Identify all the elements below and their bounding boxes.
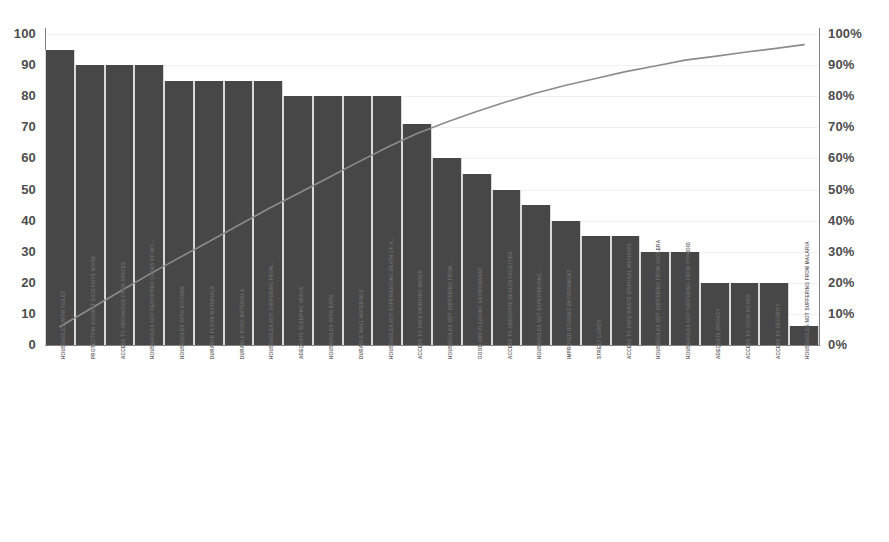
right-axis-tick: 40% (828, 214, 855, 227)
category-label: HOUSEHOLDS NOT SUFFERING FROM TYPHOID (687, 242, 692, 359)
category-label: GOOD AND PLEASING ENVIRONMENT (479, 267, 484, 359)
right-axis-tick: 10% (828, 307, 855, 320)
left-axis-tick: 70 (0, 120, 36, 133)
category-label: ACCESS TO ADEQUATE HEALTH FACILITIES (509, 251, 514, 359)
bar (224, 81, 254, 345)
left-axis-tick: 50 (0, 183, 36, 196)
category-label: ACCESS TO ORGANIZED OPEN SPACES (122, 262, 127, 359)
category-label: DURABLE ROOF MATERIALS (241, 289, 246, 359)
left-axis-tick: 60 (0, 151, 36, 164)
bar (700, 283, 730, 345)
bar (194, 81, 224, 345)
left-axis-tick: 10 (0, 307, 36, 320)
right-axis-tick: 60% (828, 151, 855, 164)
bar (492, 190, 522, 346)
right-axis-line (819, 28, 820, 345)
category-label: HOUSEHOLDS NOT SUFFERING FROM... (449, 261, 454, 359)
left-axis-tick: 100 (0, 27, 36, 40)
bar (462, 174, 492, 345)
category-label: ACCESS TO SECURITY (777, 303, 782, 359)
category-label: PROTECTION AGAINST EXCESSIVE NOISE (92, 256, 97, 359)
left-axis-tick: 80 (0, 89, 36, 102)
category-label: HOUSEHOLDS NOT SUFFERING FROM... (270, 261, 275, 359)
gridline (45, 34, 819, 35)
left-axis-tick: 30 (0, 245, 36, 258)
category-label: HOUSEHOLDS NOT EXPERIENCING DEATH OF A..… (390, 237, 395, 359)
category-label: HOUSEHOLDS NOT SUFFERING FROM MALARIA (806, 241, 811, 359)
category-label: HOUSEHOLDS NOT SUFFERING FROM CHOLERA (657, 240, 662, 359)
pareto-chart: 0102030405060708090100 0%10%20%30%40%50%… (0, 0, 889, 542)
category-label: HOUSEHOLDS WITH BATH (330, 295, 335, 359)
left-axis-tick: 40 (0, 214, 36, 227)
right-axis-tick: 90% (828, 58, 855, 71)
bar (581, 236, 611, 345)
bar (75, 65, 105, 345)
bar (313, 96, 343, 345)
category-label: HOUSEHOLDS NOT EXPERIENCING... (538, 268, 543, 359)
right-axis-tick: 20% (828, 276, 855, 289)
bar (551, 221, 581, 345)
category-label: HOUSEHOLDS WITH KITCHEN (181, 286, 186, 359)
bar (105, 65, 135, 345)
bar (372, 96, 402, 345)
bottom-axis-line (45, 345, 820, 346)
category-label: ADEQUATE PRIVACY (717, 308, 722, 359)
bar (343, 96, 373, 345)
category-label: ACCESS TO SAFE DRINKING WATER (419, 270, 424, 359)
category-label: STREET LIGHTS (598, 320, 603, 360)
bar (45, 50, 75, 345)
bar (730, 283, 760, 345)
left-axis-tick: 20 (0, 276, 36, 289)
category-label: ADEQUATE SLEEPING SPACE (300, 287, 305, 359)
right-axis-tick: 70% (828, 120, 855, 133)
category-label: ACCESS TO GOOD ROADS (747, 294, 752, 359)
category-label: DURABLE FLOOR MATERIALS (211, 286, 216, 359)
right-axis-tick: 80% (828, 89, 855, 102)
category-label: DURABLE WALL MATERIALS (360, 289, 365, 359)
category-label: HOUSEHOLDS WITH TOILET (62, 291, 67, 359)
category-label: ACCESS TO SAFE WASTE DISPOSAL METHODS (628, 243, 633, 359)
bar (164, 81, 194, 345)
right-axis-tick: 0% (828, 338, 847, 351)
left-axis-tick: 0 (0, 338, 36, 351)
left-axis-tick: 90 (0, 58, 36, 71)
right-axis-tick: 50% (828, 183, 855, 196)
right-axis-tick: 30% (828, 245, 855, 258)
category-label: HOUSEHOLDS NOT REPORTING CASES OF HIV... (151, 240, 156, 359)
bar (432, 158, 462, 345)
category-label: IMPROVED HOUSING ENVIRONMENT (568, 270, 573, 359)
bar (611, 236, 641, 345)
bar (759, 283, 789, 345)
right-axis-tick: 100% (828, 27, 862, 40)
